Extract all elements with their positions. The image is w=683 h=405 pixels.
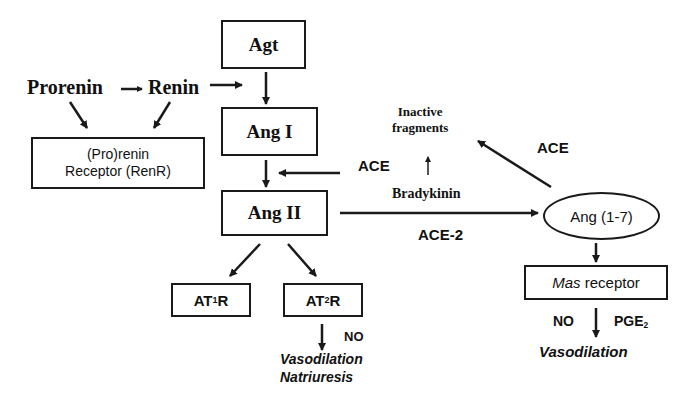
mas-vasodilation-label: Vasodilation <box>539 344 628 361</box>
ang2-box: Ang II <box>221 190 328 236</box>
at2r-prefix: AT <box>306 292 325 309</box>
ace-right-label: ACE <box>537 140 569 157</box>
arrow-ang2-to-at2r <box>288 244 316 276</box>
ang17-node: Ang (1-7) <box>543 192 660 240</box>
inactive-line1: Inactive <box>392 104 448 120</box>
renr-box: (Pro)renin Receptor (RenR) <box>31 137 205 189</box>
at2r-suffix: R <box>330 292 341 309</box>
prorenin-label: Prorenin <box>27 76 103 98</box>
mas-no-label: NO <box>553 314 574 329</box>
arrow-renin-to-renr <box>154 102 170 128</box>
pge-sub: 2 <box>644 320 649 330</box>
inactive-fragments-label: Inactive fragments <box>392 104 448 135</box>
ang17-label: Ang (1-7) <box>570 208 633 225</box>
renin-label: Renin <box>148 76 199 98</box>
mas-receptor-box: Mas receptor <box>524 265 668 300</box>
at1r-prefix: AT <box>194 292 213 309</box>
at2-vasodilation-label: Vasodilation <box>280 351 363 369</box>
mas-pge2-label: PGE2 <box>614 314 648 330</box>
renr-line1: (Pro)renin <box>87 146 149 164</box>
at2-outcome: Vasodilation Natriuresis <box>280 351 363 386</box>
bradykinin-label: Bradykinin <box>392 186 460 201</box>
agt-label: Agt <box>249 34 279 56</box>
ace-left-label: ACE <box>358 158 390 175</box>
arrow-ang2-to-at1r <box>230 244 260 276</box>
arrow-prorenin-to-renr <box>70 102 87 128</box>
at2r-box: AT2R <box>283 283 363 317</box>
ace2-label: ACE-2 <box>418 227 463 244</box>
mas-rest-label: receptor <box>581 274 640 291</box>
ang1-box: Ang I <box>221 107 318 156</box>
ras-diagram: Agt Ang I Ang II Prorenin Renin (Pro)ren… <box>0 0 683 405</box>
agt-box: Agt <box>221 20 306 69</box>
renr-line2: Receptor (RenR) <box>65 163 171 181</box>
at1r-box: AT1R <box>171 283 251 317</box>
ang1-label: Ang I <box>247 121 293 143</box>
ang2-label: Ang II <box>248 202 301 224</box>
at1r-suffix: R <box>218 292 229 309</box>
mas-italic-label: Mas <box>552 274 580 291</box>
pge-prefix: PGE <box>614 313 644 329</box>
inactive-line2: fragments <box>392 120 448 136</box>
at2-natriuresis-label: Natriuresis <box>280 369 363 387</box>
at2-no-label: NO <box>344 330 364 344</box>
